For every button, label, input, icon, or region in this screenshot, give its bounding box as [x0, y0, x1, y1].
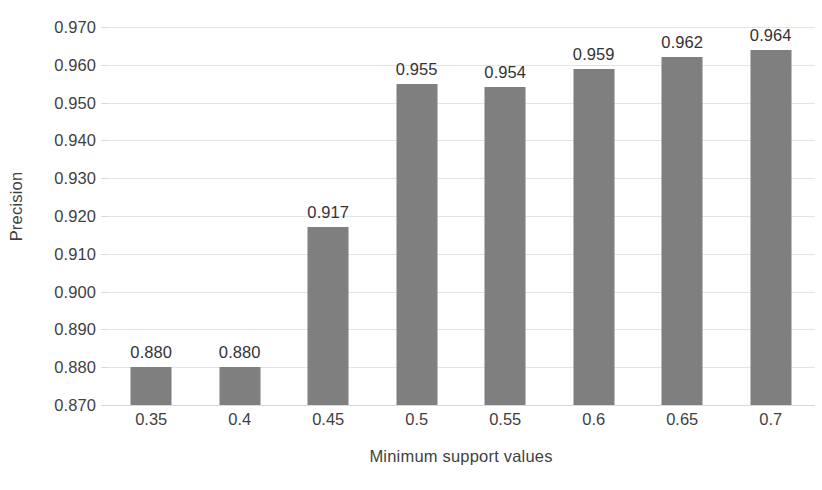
y-axis-tick-label: 0.870 [54, 396, 96, 415]
bar[interactable] [219, 367, 260, 405]
y-axis-tick-label: 0.900 [54, 282, 96, 301]
bar-group: 0.954 [461, 27, 550, 405]
y-axis-tick-mark [101, 405, 107, 406]
x-axis-tick-label: 0.7 [759, 410, 782, 429]
x-axis-tick-label: 0.35 [135, 410, 167, 429]
x-axis-tick-labels: 0.350.40.450.50.550.60.650.7 [107, 410, 815, 440]
bar-value-label: 0.880 [130, 343, 172, 362]
y-axis-tick-label: 0.970 [54, 18, 96, 37]
x-axis-tick-label: 0.5 [405, 410, 428, 429]
bar[interactable] [131, 367, 172, 405]
x-axis-tick-label: 0.65 [666, 410, 698, 429]
x-axis-tick-label: 0.4 [228, 410, 251, 429]
bar-group: 0.962 [638, 27, 727, 405]
y-axis-tick-label: 0.960 [54, 55, 96, 74]
bar[interactable] [485, 87, 526, 405]
bar-group: 0.955 [373, 27, 462, 405]
y-axis-title: Precision [0, 0, 34, 412]
y-axis-title-text: Precision [8, 171, 27, 241]
bar[interactable] [662, 57, 703, 405]
bar-group: 0.880 [107, 27, 196, 405]
bar-value-label: 0.880 [219, 343, 261, 362]
bar-value-label: 0.962 [661, 33, 703, 52]
y-axis-tick-label: 0.950 [54, 93, 96, 112]
bar[interactable] [308, 227, 349, 405]
y-axis-tick-label: 0.890 [54, 320, 96, 339]
bar-value-label: 0.955 [396, 60, 438, 79]
bar-group: 0.964 [727, 27, 816, 405]
y-axis-tick-labels: 0.9700.9600.9500.9400.9300.9200.9100.900… [34, 27, 102, 405]
bar-group: 0.880 [196, 27, 285, 405]
bar[interactable] [750, 50, 791, 405]
y-axis-tick-label: 0.920 [54, 207, 96, 226]
x-axis-tick-label: 0.55 [489, 410, 521, 429]
x-axis-title: Minimum support values [107, 447, 815, 466]
bar-value-label: 0.917 [307, 203, 349, 222]
bar-group: 0.959 [550, 27, 639, 405]
precision-bar-chart: Precision 0.9700.9600.9500.9400.9300.920… [0, 0, 822, 490]
bar-value-label: 0.964 [750, 26, 792, 45]
bar[interactable] [396, 84, 437, 405]
y-axis-tick-label: 0.930 [54, 169, 96, 188]
bar[interactable] [573, 69, 614, 405]
y-axis-tick-label: 0.880 [54, 358, 96, 377]
y-axis-tick-label: 0.940 [54, 131, 96, 150]
gridline [107, 405, 815, 406]
x-axis-tick-label: 0.6 [582, 410, 605, 429]
bar-value-label: 0.959 [573, 45, 615, 64]
bar-value-label: 0.954 [484, 63, 526, 82]
plot-area: 0.8800.8800.9170.9550.9540.9590.9620.964 [107, 27, 815, 405]
x-axis-tick-label: 0.45 [312, 410, 344, 429]
bar-group: 0.917 [284, 27, 373, 405]
bars-layer: 0.8800.8800.9170.9550.9540.9590.9620.964 [107, 27, 815, 405]
y-axis-tick-label: 0.910 [54, 244, 96, 263]
